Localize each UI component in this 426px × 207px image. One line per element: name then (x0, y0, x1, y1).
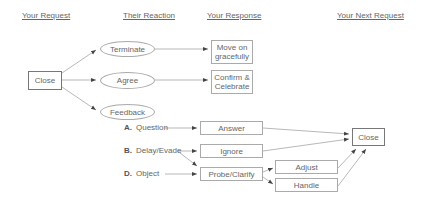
adjust-box: Adjust (275, 160, 338, 174)
handle-label: Handle (294, 181, 319, 190)
confirm-line1: Confirm & (214, 73, 250, 82)
adjust-label: Adjust (295, 163, 317, 172)
agree-label: Agree (117, 76, 138, 85)
feedback-ellipse: Feedback (100, 104, 155, 120)
header-your-response: Your Response (207, 11, 261, 20)
confirm-line2: Celebrate (215, 82, 250, 91)
move-on-line2: gracefully (215, 52, 249, 61)
header-your-next-request: Your Next Request (337, 11, 404, 20)
header-their-reaction: Their Reaction (123, 11, 175, 20)
feedback-type-question: A.Question (124, 123, 168, 132)
feedback-label: Feedback (110, 108, 145, 117)
move-on-box: Move on gracefully (211, 40, 253, 64)
close-start-box: Close (28, 71, 62, 90)
close-end-box: Close (352, 128, 385, 146)
terminate-label: Terminate (110, 45, 145, 54)
ignore-label: Ignore (220, 147, 243, 156)
agree-ellipse: Agree (100, 72, 155, 89)
answer-label: Answer (218, 124, 245, 133)
feedback-type-object: D.Object (124, 169, 159, 178)
header-your-request: Your Request (22, 11, 70, 20)
probe-clarify-box: Probe/Clarify (200, 167, 263, 181)
handle-box: Handle (275, 178, 338, 192)
confirm-celebrate-box: Confirm & Celebrate (211, 70, 253, 94)
answer-box: Answer (200, 121, 263, 135)
move-on-line1: Move on (217, 43, 248, 52)
probe-clarify-label: Probe/Clarify (208, 170, 254, 179)
close-end-label: Close (358, 133, 378, 142)
terminate-ellipse: Terminate (100, 41, 155, 57)
close-start-label: Close (35, 76, 55, 85)
feedback-type-delay-evade: B.Delay/Evade (124, 146, 181, 155)
ignore-box: Ignore (200, 144, 263, 158)
